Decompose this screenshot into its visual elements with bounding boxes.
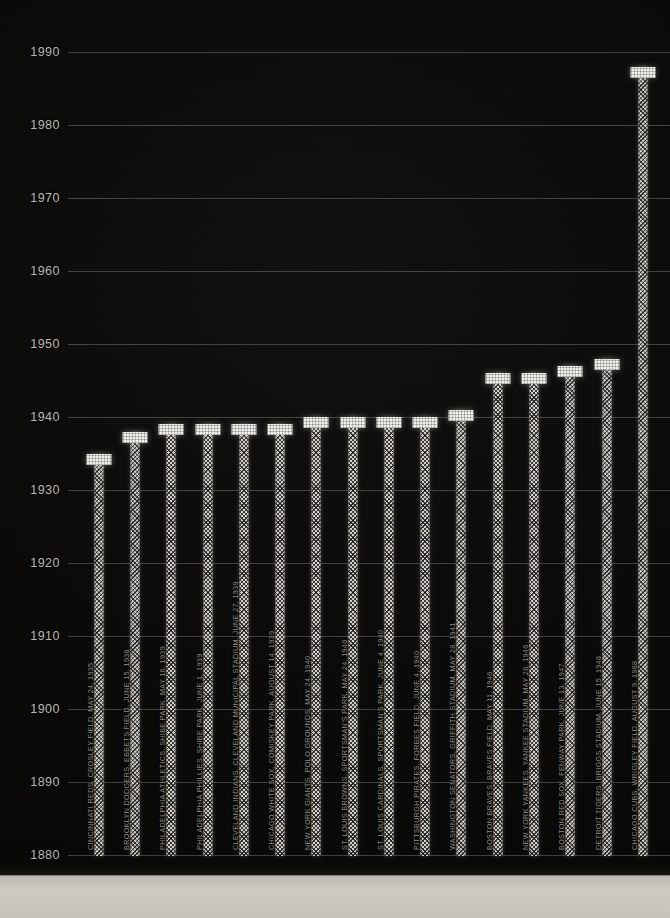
bar-stem bbox=[602, 359, 611, 856]
bar-10: WASHINGTON SENATORS, GRIFFITH STADIUM, M… bbox=[447, 410, 475, 856]
bar-5: CHICAGO WHITE SOX, COMISKEY PARK, AUGUST… bbox=[266, 424, 294, 856]
bar-label: NEW YORK GIANTS, POLO GROUNDS, MAY 24, 1… bbox=[303, 656, 312, 850]
bar-label: NEW YORK YANKEES, YANKEE STADIUM, MAY 28… bbox=[521, 644, 530, 850]
bar-stem bbox=[457, 410, 466, 856]
bar-6: NEW YORK GIANTS, POLO GROUNDS, MAY 24, 1… bbox=[302, 417, 330, 856]
bar-stem bbox=[384, 417, 393, 856]
bar-cap-light-tower bbox=[449, 410, 474, 421]
bar-11: BOSTON BRAVES, BRAVES FIELD, MAY 11, 194… bbox=[484, 373, 512, 856]
bar-stem bbox=[131, 432, 140, 856]
bar-label: PHILADELPHIA ATHLETICS, SHIBE PARK, MAY … bbox=[158, 646, 167, 850]
bar-label: CHICAGO CUBS, WRIGLEY FIELD, AUGUST 9, 1… bbox=[630, 661, 639, 850]
y-tick-label-1890: 1890 bbox=[0, 775, 60, 789]
bar-label: CLEVELAND INDIANS, CLEVELAND MUNICIPAL S… bbox=[231, 581, 240, 850]
bar-label: WASHINGTON SENATORS, GRIFFITH STADIUM, M… bbox=[448, 622, 457, 850]
chart-plot-area: 1880189019001910192019301940195019601970… bbox=[0, 0, 670, 918]
bar-stem bbox=[493, 373, 502, 856]
bar-stem bbox=[239, 424, 248, 856]
bar-7: ST. LOUIS BROWNS, SPORTSMAN'S PARK, MAY … bbox=[339, 417, 367, 856]
bar-label: DETROIT TIGERS, BRIGGS STADIUM, JUNE 15,… bbox=[594, 656, 603, 850]
bar-label: PITTSBURGH PIRATES, FORBES FIELD, JUNE 4… bbox=[412, 651, 421, 850]
y-tick-label-1980: 1980 bbox=[0, 118, 60, 132]
bar-9: PITTSBURGH PIRATES, FORBES FIELD, JUNE 4… bbox=[411, 417, 439, 856]
bar-2: PHILADELPHIA ATHLETICS, SHIBE PARK, MAY … bbox=[157, 424, 185, 856]
y-tick-label-1900: 1900 bbox=[0, 702, 60, 716]
bar-0: CINCINNATI REDS, CROSLEY FIELD, MAY 24, … bbox=[85, 454, 113, 857]
bar-stem bbox=[566, 366, 575, 856]
bar-4: CLEVELAND INDIANS, CLEVELAND MUNICIPAL S… bbox=[230, 424, 258, 856]
bar-stem bbox=[276, 424, 285, 856]
bar-label: BROOKLYN DODGERS, EBBETS FIELD, JUNE 15,… bbox=[122, 649, 131, 850]
bar-cap-light-tower bbox=[268, 424, 293, 435]
bar-8: ST. LOUIS CARDINALS, SPORTSMAN'S PARK, J… bbox=[375, 417, 403, 856]
bar-1: BROOKLYN DODGERS, EBBETS FIELD, JUNE 15,… bbox=[121, 432, 149, 856]
y-tick-label-1990: 1990 bbox=[0, 45, 60, 59]
bar-3: PHILADELPHIA PHILLIES, SHIBE PARK, JUNE … bbox=[194, 424, 222, 856]
bar-cap-light-tower bbox=[413, 417, 438, 428]
bar-label: CHICAGO WHITE SOX, COMISKEY PARK, AUGUST… bbox=[267, 631, 276, 850]
bar-cap-light-tower bbox=[594, 359, 619, 370]
bar-14: DETROIT TIGERS, BRIGGS STADIUM, JUNE 15,… bbox=[593, 359, 621, 856]
platform-base bbox=[0, 876, 670, 918]
y-tick-label-1880: 1880 bbox=[0, 848, 60, 862]
bar-cap-light-tower bbox=[123, 432, 148, 443]
bar-cap-light-tower bbox=[304, 417, 329, 428]
bar-stem bbox=[312, 417, 321, 856]
y-tick-label-1970: 1970 bbox=[0, 191, 60, 205]
bar-cap-light-tower bbox=[485, 373, 510, 384]
bar-15: CHICAGO CUBS, WRIGLEY FIELD, AUGUST 9, 1… bbox=[629, 67, 657, 856]
y-tick-label-1950: 1950 bbox=[0, 337, 60, 351]
bar-12: NEW YORK YANKEES, YANKEE STADIUM, MAY 28… bbox=[520, 373, 548, 856]
bar-stem bbox=[167, 424, 176, 856]
bar-stem bbox=[638, 67, 647, 856]
bar-cap-light-tower bbox=[340, 417, 365, 428]
bar-series: CINCINNATI REDS, CROSLEY FIELD, MAY 24, … bbox=[68, 0, 670, 918]
bar-cap-light-tower bbox=[630, 67, 655, 78]
bar-cap-light-tower bbox=[376, 417, 401, 428]
bar-cap-light-tower bbox=[195, 424, 220, 435]
bar-cap-light-tower bbox=[86, 454, 111, 465]
bar-cap-light-tower bbox=[558, 366, 583, 377]
bar-stem bbox=[530, 373, 539, 856]
bar-label: CINCINNATI REDS, CROSLEY FIELD, MAY 24, … bbox=[86, 663, 95, 850]
bar-stem bbox=[94, 454, 103, 857]
bar-cap-light-tower bbox=[159, 424, 184, 435]
bar-label: BOSTON RED SOX, FENWAY PARK, JUNE 13, 19… bbox=[557, 663, 566, 850]
y-tick-label-1960: 1960 bbox=[0, 264, 60, 278]
bar-label: ST. LOUIS CARDINALS, SPORTSMAN'S PARK, J… bbox=[376, 630, 385, 850]
bar-label: PHILADELPHIA PHILLIES, SHIBE PARK, JUNE … bbox=[195, 654, 204, 850]
y-tick-label-1920: 1920 bbox=[0, 556, 60, 570]
y-tick-label-1930: 1930 bbox=[0, 483, 60, 497]
y-tick-label-1910: 1910 bbox=[0, 629, 60, 643]
bar-stem bbox=[348, 417, 357, 856]
bar-label: ST. LOUIS BROWNS, SPORTSMAN'S PARK, MAY … bbox=[340, 639, 349, 850]
bar-13: BOSTON RED SOX, FENWAY PARK, JUNE 13, 19… bbox=[556, 366, 584, 856]
bar-label: BOSTON BRAVES, BRAVES FIELD, MAY 11, 194… bbox=[485, 671, 494, 850]
bar-stem bbox=[421, 417, 430, 856]
bar-stem bbox=[203, 424, 212, 856]
y-tick-label-1940: 1940 bbox=[0, 410, 60, 424]
bar-cap-light-tower bbox=[522, 373, 547, 384]
bar-cap-light-tower bbox=[231, 424, 256, 435]
